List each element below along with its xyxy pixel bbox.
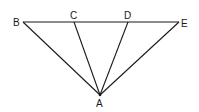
- label-A: A: [96, 98, 103, 109]
- segment-AB: [23, 22, 100, 95]
- segment-AE: [100, 22, 179, 95]
- label-D: D: [124, 10, 131, 21]
- segment-AC: [74, 22, 100, 95]
- label-C: C: [70, 10, 77, 21]
- label-B: B: [13, 17, 20, 28]
- segment-AD: [100, 22, 128, 95]
- point-A-dot: [99, 94, 102, 97]
- triangle-diagram: B C D E A: [0, 0, 199, 112]
- label-E: E: [181, 18, 188, 29]
